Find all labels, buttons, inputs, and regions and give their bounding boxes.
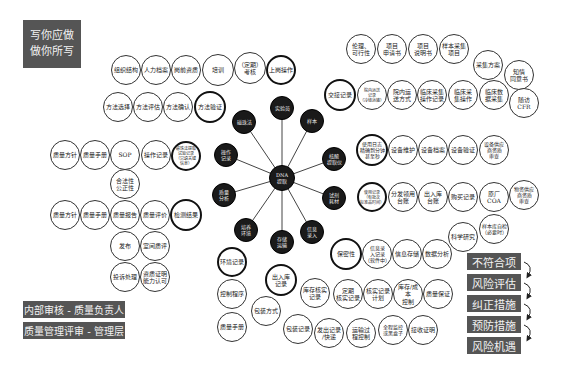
curved-arrow-icons — [0, 0, 562, 372]
dna-extraction-quality-mindmap: 写你应做 做你所写 组织结构人力档案岗前资质培训（定期） 考核上岗操作方法选择方… — [0, 0, 562, 372]
